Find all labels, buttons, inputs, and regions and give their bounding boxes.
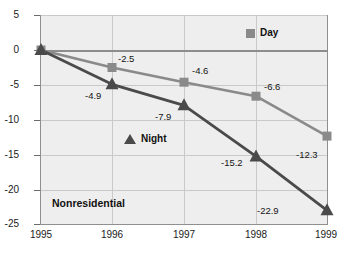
day-marker-1996 [108,63,117,72]
night-value-label-1997: -7.9 [155,112,171,122]
day-value-label-1998: -6.6 [264,82,280,92]
night-triangle-icon [124,134,136,144]
day-marker-1997 [180,78,189,87]
night-value-label-1999: -22.9 [257,206,279,216]
day-marker-1999 [323,132,332,141]
day-value-label-1999: -12.3 [296,150,318,160]
day-marker-1998 [252,92,261,101]
legend-night: Night [124,134,167,144]
night-value-label-1996: -4.9 [85,91,101,101]
legend-day-label: Day [260,28,278,38]
line-chart: 5 0 -5 -10 -15 -20 -25 1995 1996 1997 19… [0,0,353,257]
night-value-label-1998: -15.2 [221,158,243,168]
night-marker-1995 [35,43,48,55]
series-layer [0,0,353,257]
day-series-line [41,50,327,136]
day-value-label-1996: -2.5 [118,54,134,64]
night-series-line [41,50,327,210]
legend-day: Day [246,28,278,38]
day-square-icon [246,29,255,38]
day-value-label-1997: -4.6 [192,66,208,76]
legend-night-label: Night [141,134,167,144]
night-marker-1998 [250,149,263,161]
chart-annotation-nonresidential: Nonresidential [52,198,125,209]
